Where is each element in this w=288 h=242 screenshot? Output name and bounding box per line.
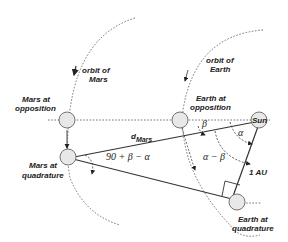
label-alpha: α <box>238 127 244 138</box>
label-mars-quadrature-2: quadrature <box>22 171 64 180</box>
label-d-mars: dMars <box>131 132 152 143</box>
sun-earth-line <box>232 121 260 199</box>
label-mars-quadrature-1: Mars at <box>29 161 57 170</box>
mars-earth-line <box>69 158 232 199</box>
mars-orbit <box>68 18 136 225</box>
label-orbit-earth-2: Earth <box>210 65 231 74</box>
earth-quadrature-body <box>229 194 245 210</box>
label-earth-quadrature-1: Earth at <box>238 215 268 224</box>
label-orbit-mars-1: orbit of <box>82 66 111 75</box>
label-d-mars-sub: Mars <box>136 136 152 143</box>
label-mars-opposition-2: opposition <box>15 104 56 113</box>
label-1-au: 1 AU <box>249 168 267 177</box>
label-quadrature-angle: 90 + β − α <box>106 151 150 162</box>
quadrature-angle-arc <box>85 155 93 174</box>
label-earth-opposition-2: opposition <box>190 103 231 112</box>
label-orbit-mars-2: Mars <box>89 75 108 84</box>
label-sun: Sun <box>252 116 267 125</box>
label-earth-quadrature-2: quadrature <box>232 224 274 233</box>
label-mars-opposition-1: Mars at <box>22 95 50 104</box>
label-earth-opposition-1: Earth at <box>196 94 226 103</box>
diagram-canvas: orbit of Mars orbit of Earth Mars at opp… <box>0 0 288 242</box>
orbital-diagram: orbit of Mars orbit of Earth Mars at opp… <box>0 0 288 242</box>
earth-orbit-arrow-icon <box>185 70 188 81</box>
mars-orbit-arrow-icon <box>74 66 76 75</box>
mars-opposition-body <box>59 112 75 128</box>
label-orbit-earth-1: orbit of <box>206 56 235 65</box>
mars-quadrature-body <box>60 149 76 165</box>
earth-opposition-body <box>172 112 188 128</box>
label-beta: β <box>201 118 207 129</box>
label-alpha-minus-beta: α − β <box>203 151 225 162</box>
